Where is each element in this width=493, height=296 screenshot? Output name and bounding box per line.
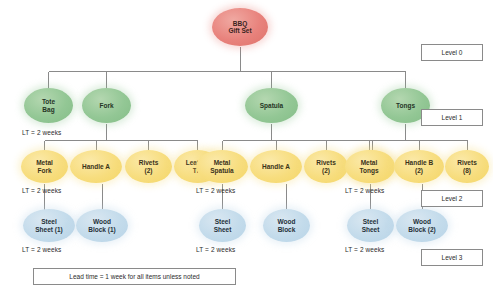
bom-node-wood-block-2[interactable]: Wood Block (2): [396, 209, 448, 242]
bom-node-label: Wood Block (2): [408, 218, 435, 232]
bom-node-label: Rivets (8): [457, 159, 477, 173]
bom-node-label: Steel Sheet: [362, 218, 380, 232]
level-marker-level-0: Level 0: [421, 44, 483, 61]
bom-node-rivets-2[interactable]: Rivets (2): [125, 150, 172, 183]
legend-note: Lead time = 1 week for all items unless …: [33, 268, 236, 285]
bom-node-wood-block[interactable]: Wood Block: [263, 209, 310, 242]
bom-node-steel-sheet[interactable]: Steel Sheet: [347, 209, 394, 242]
lead-time-label: LT = 2 weeks: [345, 246, 384, 253]
bom-node-label: Rivets (2): [316, 159, 336, 173]
bom-node-label: Steel Sheet (1): [35, 218, 62, 232]
bom-node-handle-b-2[interactable]: Handle B (2): [394, 150, 444, 183]
bom-node-label: Handle B (2): [405, 159, 433, 173]
bom-node-wood-block-1[interactable]: Wood Block (1): [76, 209, 128, 242]
lead-time-label: LT = 2 weeks: [22, 129, 61, 136]
bom-node-steel-sheet[interactable]: Steel Sheet: [199, 209, 246, 242]
bom-node-bbq-gift-set[interactable]: BBQ Gift Set: [212, 8, 268, 46]
lead-time-label: LT = 2 weeks: [345, 187, 384, 194]
legend-note-text: Lead time = 1 week for all items unless …: [69, 273, 199, 280]
bom-node-label: Metal Spatula: [210, 159, 233, 173]
level-marker-level-3: Level 3: [421, 249, 483, 266]
bom-node-label: Metal Tongs: [359, 159, 378, 173]
bom-node-label: Rivets (2): [139, 159, 159, 173]
bom-node-rivets-2[interactable]: Rivets (2): [304, 150, 348, 183]
lead-time-label: LT = 2 weeks: [22, 187, 61, 194]
bom-node-rivets-8[interactable]: Rivets (8): [445, 150, 489, 183]
bom-node-label: Handle A: [262, 163, 290, 170]
bom-diagram-canvas: BBQ Gift SetTote BagForkSpatulaTongsMeta…: [0, 0, 493, 296]
bom-node-metal-fork[interactable]: Metal Fork: [21, 150, 68, 183]
bom-node-label: Wood Block: [278, 218, 296, 232]
bom-node-fork[interactable]: Fork: [82, 88, 131, 123]
bom-node-label: Metal Fork: [36, 159, 53, 173]
bom-node-spatula[interactable]: Spatula: [245, 88, 298, 123]
bom-node-label: Handle A: [82, 163, 110, 170]
lead-time-label: LT = 2 weeks: [22, 246, 61, 253]
lead-time-label: LT = 2 weeks: [196, 246, 235, 253]
bom-node-label: Spatula: [260, 102, 283, 109]
bom-node-steel-sheet-1[interactable]: Steel Sheet (1): [23, 209, 75, 242]
lead-time-label: LT = 2 weeks: [196, 187, 235, 194]
bom-node-metal-tongs[interactable]: Metal Tongs: [345, 150, 393, 183]
bom-node-label: Tote Bag: [42, 98, 55, 112]
bom-node-metal-spatula[interactable]: Metal Spatula: [196, 150, 248, 183]
bom-node-label: Fork: [99, 102, 113, 109]
level-marker-level-1: Level 1: [421, 109, 483, 126]
bom-node-label: Tongs: [396, 102, 415, 109]
bom-node-label: Wood Block (1): [88, 218, 115, 232]
level-marker-level-2: Level 2: [421, 190, 483, 207]
bom-node-handle-a[interactable]: Handle A: [250, 150, 302, 183]
bom-node-label: BBQ Gift Set: [228, 20, 251, 34]
bom-node-tote-bag[interactable]: Tote Bag: [24, 88, 73, 123]
bom-node-handle-a[interactable]: Handle A: [70, 150, 122, 183]
bom-node-label: Steel Sheet: [214, 218, 232, 232]
